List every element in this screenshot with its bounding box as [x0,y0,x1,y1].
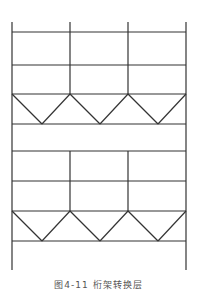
frame-lines [12,22,186,270]
lower-truss-diagonal-5 [128,211,158,241]
lower-truss-diagonal-2 [42,211,70,241]
upper-truss-diagonal-6 [158,94,186,124]
lower-truss-diagonal-4 [100,211,128,241]
figure-caption: 图4-11 桁架转换层 [0,278,197,291]
lower-truss-diagonal-3 [70,211,100,241]
lower-truss-diagonal-6 [158,211,186,241]
upper-truss-diagonal-1 [12,94,42,124]
lower-truss-diagonal-1 [12,211,42,241]
upper-truss-diagonal-2 [42,94,70,124]
upper-truss-diagonal-4 [100,94,128,124]
upper-truss-diagonal-3 [70,94,100,124]
upper-truss-diagonal-5 [128,94,158,124]
